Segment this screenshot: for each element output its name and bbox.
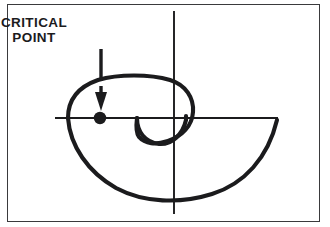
annotation-arrow-head-icon bbox=[95, 92, 107, 111]
critical-point-dot bbox=[94, 112, 106, 124]
critical-point-label-line-2: POINT bbox=[0, 30, 199, 45]
critical-point-label-line-1: CRITICAL bbox=[0, 15, 199, 30]
outer-teardrop-sweep-curve bbox=[68, 118, 277, 201]
inner-small-loop-curve bbox=[137, 116, 186, 144]
figure-container: CRITICAL POINT bbox=[0, 0, 330, 227]
